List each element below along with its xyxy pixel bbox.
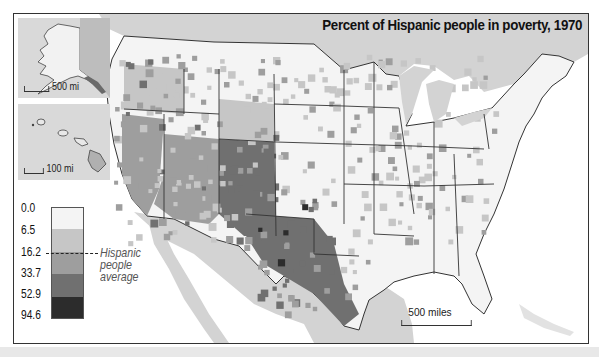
county-cell — [133, 183, 138, 188]
county-cell — [378, 61, 385, 68]
county-cell — [140, 81, 148, 89]
county-cell — [126, 112, 130, 116]
county-cell — [484, 76, 488, 80]
county-cell — [227, 221, 234, 228]
county-cell — [224, 215, 230, 221]
county-cell — [224, 82, 230, 88]
county-cell — [345, 90, 350, 95]
county-cell — [190, 158, 196, 164]
county-cell — [207, 67, 212, 72]
county-cell — [171, 148, 176, 153]
county-cell — [364, 204, 372, 212]
county-cell — [202, 131, 207, 136]
county-cell — [375, 146, 380, 151]
county-cell — [368, 74, 376, 82]
county-cell — [220, 66, 226, 72]
county-cell — [228, 188, 234, 194]
county-cell — [467, 154, 471, 158]
legend-swatch-3 — [51, 274, 84, 296]
county-cell — [163, 69, 168, 74]
county-cell — [473, 147, 480, 154]
county-cell — [372, 173, 380, 181]
county-cell — [319, 68, 324, 73]
county-cell — [309, 106, 315, 112]
county-cell — [188, 127, 196, 135]
county-cell — [244, 245, 250, 251]
county-cell — [232, 214, 239, 221]
county-cell — [386, 58, 393, 65]
county-cell — [368, 239, 373, 244]
county-cell — [408, 226, 412, 230]
legend-break-0: 0.0 — [21, 201, 35, 215]
county-cell — [353, 285, 359, 291]
county-cell — [414, 239, 419, 244]
county-cell — [327, 131, 334, 138]
county-cell — [220, 59, 225, 64]
county-cell — [158, 176, 164, 182]
county-cell — [325, 86, 332, 93]
county-cell — [195, 125, 201, 131]
county-cell — [255, 132, 261, 138]
county-cell — [367, 55, 373, 61]
hawaii-scale-bar: 100 mi — [24, 163, 74, 174]
county-cell — [417, 203, 422, 208]
county-cell — [329, 269, 334, 274]
oahu — [58, 130, 68, 136]
main-scale-label: 500 miles — [408, 306, 451, 318]
county-cell — [247, 168, 253, 174]
bottom-strip — [0, 347, 599, 357]
county-cell — [305, 303, 310, 308]
county-cell — [261, 128, 268, 135]
county-cell — [366, 260, 371, 265]
county-cell — [278, 155, 283, 160]
county-cell — [345, 293, 352, 300]
county-cell — [472, 77, 476, 81]
county-cell — [298, 81, 305, 88]
county-cell — [405, 237, 413, 245]
county-cell — [238, 168, 244, 174]
county-cell — [357, 124, 361, 128]
county-cell — [484, 198, 490, 204]
county-cell — [155, 183, 160, 188]
county-cell — [265, 116, 269, 120]
legend-break-5: 94.6 — [21, 308, 41, 322]
county-cell — [291, 94, 295, 98]
county-cell — [396, 191, 402, 197]
county-cell — [278, 259, 285, 266]
county-cell — [150, 89, 157, 96]
county-cell — [335, 93, 340, 98]
county-cell — [302, 204, 308, 210]
county-cell — [261, 232, 268, 239]
county-cell — [117, 162, 122, 167]
alaska-inset: 500 mi — [18, 18, 110, 98]
county-cell — [395, 177, 399, 181]
county-cell — [273, 135, 279, 141]
county-cell — [189, 175, 194, 180]
county-cell — [324, 288, 330, 294]
county-cell — [175, 93, 180, 98]
county-cell — [226, 236, 233, 243]
county-cell — [185, 221, 189, 225]
county-cell — [276, 302, 283, 309]
county-cell — [127, 177, 131, 181]
county-cell — [186, 184, 191, 189]
county-cell — [393, 167, 398, 172]
county-cell — [380, 204, 388, 212]
county-cell — [265, 104, 269, 108]
county-cell — [181, 212, 185, 216]
county-cell — [257, 89, 262, 94]
county-cell — [294, 78, 298, 82]
alaska-scale-bar: 500 mi — [24, 81, 79, 92]
county-cell — [480, 81, 488, 89]
county-cell — [313, 199, 318, 204]
county-cell — [390, 132, 397, 139]
hawaii-inset: 100 mi — [18, 104, 110, 180]
county-cell — [261, 59, 265, 63]
maui-molokai — [74, 138, 88, 146]
county-cell — [181, 178, 186, 183]
county-cell — [466, 195, 474, 203]
county-cell — [177, 54, 181, 58]
county-cell — [277, 293, 282, 298]
county-cell — [341, 267, 347, 273]
county-cell — [439, 144, 447, 152]
